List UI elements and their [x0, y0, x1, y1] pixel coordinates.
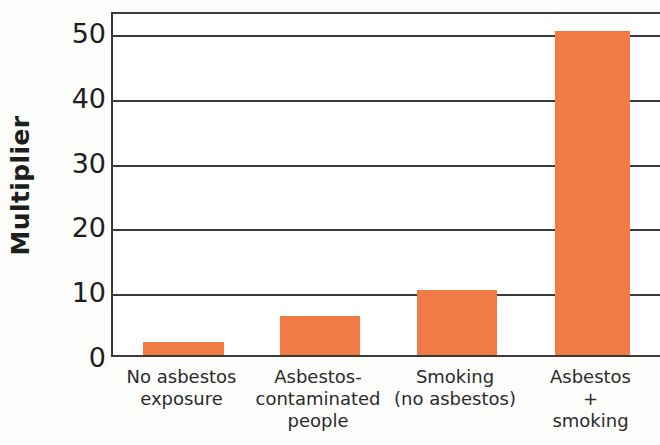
- bar-1: [143, 342, 224, 355]
- x-category-label-line: +: [516, 388, 660, 410]
- y-tick-label-50: 50: [38, 20, 106, 47]
- y-axis-title: Multiplier: [6, 115, 35, 255]
- bar-series: [113, 14, 660, 355]
- bar-4: [555, 31, 630, 355]
- x-axis-category-labels: No asbestosexposureAsbestos-contaminated…: [111, 366, 660, 445]
- bar-3: [417, 290, 497, 355]
- x-category-label-line: exposure: [107, 388, 257, 410]
- y-tick-label-40: 40: [38, 84, 106, 111]
- x-category-label-line: (no asbestos): [375, 388, 535, 410]
- plot-area: [111, 12, 660, 357]
- bar-chart-figure: Multiplier 01020304050 No asbestosexposu…: [0, 0, 660, 445]
- y-axis-title-container: Multiplier: [0, 0, 40, 370]
- x-category-label-line: Smoking: [375, 366, 535, 388]
- x-category-label-line: people: [236, 410, 401, 432]
- y-tick-label-10: 10: [38, 279, 106, 306]
- y-tick-label-30: 30: [38, 149, 106, 176]
- x-category-label-3: Smoking(no asbestos): [375, 366, 535, 410]
- x-category-label-4: Asbestos+smoking: [516, 366, 660, 432]
- x-category-label-line: No asbestos: [107, 366, 257, 388]
- y-tick-label-0: 0: [38, 344, 106, 371]
- x-category-label-1: No asbestosexposure: [107, 366, 257, 410]
- y-axis-tick-labels: 01020304050: [38, 0, 106, 380]
- x-category-label-line: smoking: [516, 410, 660, 432]
- x-category-label-line: Asbestos: [516, 366, 660, 388]
- y-tick-label-20: 20: [38, 214, 106, 241]
- bar-2: [280, 316, 360, 355]
